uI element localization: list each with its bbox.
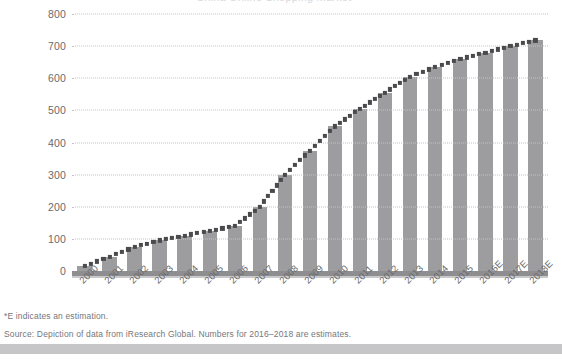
plot-area [72, 14, 548, 271]
y-tick-label: 600 [30, 72, 66, 84]
y-tick-label: 800 [30, 8, 66, 20]
gridline [72, 14, 548, 15]
y-tick-label: 0 [30, 265, 66, 277]
bar[interactable] [528, 40, 543, 271]
bar[interactable] [328, 126, 343, 271]
y-tick-label: 200 [30, 201, 66, 213]
bar[interactable] [503, 46, 518, 271]
y-axis: 8007006005004003002001000 [24, 0, 66, 296]
y-tick-label: 100 [30, 233, 66, 245]
bar[interactable] [278, 175, 293, 271]
bar[interactable] [378, 93, 393, 271]
bar[interactable] [303, 151, 318, 271]
y-tick-label: 400 [30, 137, 66, 149]
y-tick-label: 300 [30, 169, 66, 181]
chart-container: 8007006005004003002001000 20002001200220… [0, 0, 562, 296]
gridline [72, 78, 548, 79]
footnotes: *E indicates an estimation. Source: Depi… [4, 312, 558, 347]
gridline [72, 238, 548, 239]
gridline [72, 110, 548, 111]
footnote-estimation: *E indicates an estimation. [4, 312, 558, 321]
y-tick-label: 500 [30, 104, 66, 116]
gridline [72, 206, 548, 207]
gridline [72, 46, 548, 47]
y-tick-label: 700 [30, 40, 66, 52]
bottom-accent-strip [0, 344, 562, 354]
gridline [72, 142, 548, 143]
x-axis: 2000200120022003200420052006200720082009… [72, 278, 548, 312]
footnote-source: Source: Depiction of data from iResearch… [4, 330, 558, 339]
bar[interactable] [353, 109, 368, 271]
gridline [72, 174, 548, 175]
bar[interactable] [428, 67, 443, 271]
